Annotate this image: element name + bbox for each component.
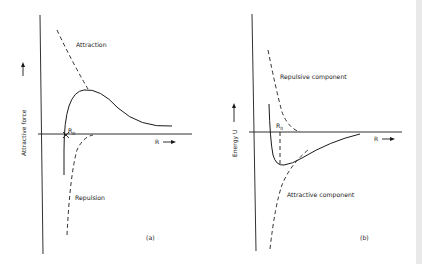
panel-a-y-arrow-icon — [21, 62, 25, 76]
panel-a-y-axis — [40, 15, 43, 254]
panel-b-x-arrow-icon — [382, 137, 395, 141]
panel-a-x-arrow-icon — [163, 140, 176, 144]
panel-a-attraction-curve — [57, 30, 88, 89]
figure: Attractive force R Attraction Repulsion … — [0, 0, 422, 264]
panel-a-tag: (a) — [146, 234, 155, 241]
panel-b: Energy U R Repulsive component Attractiv… — [231, 14, 402, 251]
panel-a-y-axis-label: Attractive force — [20, 109, 27, 156]
panel-b-y-axis-label: Energy U — [231, 130, 239, 157]
panel-b-attractive-label: Attractive component — [287, 191, 355, 199]
panel-a-repulsion-curve — [67, 135, 93, 235]
panel-a-attraction-label: Attraction — [76, 41, 107, 48]
diagram-canvas: Attractive force R Attraction Repulsion … — [0, 0, 422, 264]
panel-a: Attractive force R Attraction Repulsion … — [20, 15, 192, 254]
page-edge — [416, 0, 422, 264]
panel-b-repulsive-curve — [268, 50, 300, 132]
panel-b-attractive-curve — [270, 150, 308, 249]
panel-b-repulsive-label: Repulsive component — [280, 73, 347, 81]
panel-b-x-axis-label: R — [374, 135, 378, 142]
panel-b-y-arrow-icon — [232, 103, 236, 122]
panel-a-x-axis-label: R — [155, 138, 159, 145]
panel-b-y-axis — [252, 14, 256, 251]
panel-a-repulsion-label: Repulsion — [75, 194, 105, 202]
panel-a-net-force-curve — [64, 90, 172, 175]
panel-b-tag: (b) — [360, 234, 369, 241]
panel-b-r0-label: R0 — [276, 122, 283, 131]
